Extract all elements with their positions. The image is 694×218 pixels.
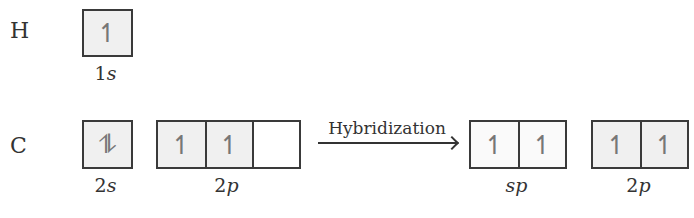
orbital-label-c-2p: 2p bbox=[156, 174, 297, 196]
right-arrow-icon bbox=[318, 142, 456, 144]
up-arrow-icon: ↿ bbox=[518, 122, 565, 167]
hybridization-arrow: Hybridization bbox=[318, 118, 456, 144]
up-arrow-icon: ↿ bbox=[205, 122, 252, 167]
up-arrow-icon: ↿ bbox=[640, 122, 687, 167]
paired-arrows-icon: ⥮ bbox=[84, 122, 131, 167]
up-arrow-icon: ↿ bbox=[158, 122, 205, 167]
orbital-label-h-1s: 1s bbox=[82, 62, 129, 84]
up-arrow-icon: ↿ bbox=[593, 122, 640, 167]
empty-orbital bbox=[252, 122, 299, 167]
orbital-box-c-2s: ⥮ bbox=[82, 120, 133, 169]
orbital-box-h-1s: ↿ bbox=[82, 9, 133, 57]
orbital-group-c-sp: ↿ ↿ bbox=[469, 120, 567, 169]
hybridization-label: Hybridization bbox=[318, 118, 456, 138]
orbital-label-c-sp: sp bbox=[469, 174, 564, 196]
up-arrow-icon: ↿ bbox=[84, 11, 131, 55]
element-label-h: H bbox=[10, 18, 29, 43]
orbital-group-c-2p-after: ↿ ↿ bbox=[591, 120, 689, 169]
orbital-label-c-2p-after: 2p bbox=[591, 174, 686, 196]
up-arrow-icon: ↿ bbox=[471, 122, 518, 167]
orbital-label-c-2s: 2s bbox=[82, 174, 129, 196]
element-label-c: C bbox=[10, 133, 27, 158]
orbital-group-c-2p: ↿ ↿ bbox=[156, 120, 301, 169]
